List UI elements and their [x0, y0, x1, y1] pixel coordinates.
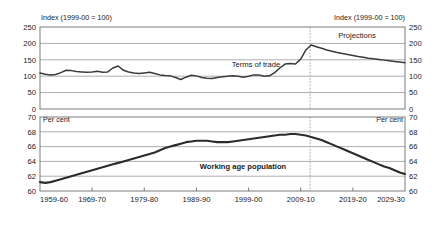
ytick-left-150: 150: [23, 56, 36, 65]
ytick-right-200: 200: [409, 39, 422, 48]
bottom-plot-frame: [40, 117, 405, 191]
top-axis-title-left: Index (1999-00 = 100): [41, 13, 112, 22]
ytick-left-70: 70: [28, 113, 36, 122]
top-axis-title-right: Index (1999-00 = 100): [334, 13, 405, 22]
ytick-left-250: 250: [23, 23, 36, 32]
ytick-left-50: 50: [28, 88, 36, 97]
terms-of-trade-annotation: Terms of trade: [232, 60, 281, 69]
ytick-left-66: 66: [28, 142, 36, 151]
xtick-label-1969-70: 1969-70: [78, 195, 106, 204]
ytick-right-60: 60: [409, 187, 417, 196]
xtick-label-1959-60: 1959-60: [40, 195, 68, 204]
bottom-ytick-labels-left: 70 68 66 64 62 60: [28, 113, 36, 196]
top-ytick-labels-right: 250 200 150 100 50 0: [409, 23, 422, 114]
ytick-right-68: 68: [409, 128, 417, 137]
xtick-label-1979-80: 1979-80: [130, 195, 158, 204]
ytick-left-68: 68: [28, 128, 36, 137]
bottom-axis-title-left: Per cent: [43, 115, 70, 124]
projections-annotation: Projections: [338, 31, 376, 40]
x-axis-tick-labels: 1959-601969-701979-801989-901999-002009-…: [40, 195, 405, 204]
xtick-label-1999-00: 1999-00: [235, 195, 263, 204]
terms-of-trade-line: [40, 45, 405, 79]
working-age-population-line: [40, 134, 405, 183]
xtick-label-2029-30: 2029-30: [377, 195, 405, 204]
ytick-right-150: 150: [409, 56, 422, 65]
figure-container: Index (1999-00 = 100) Index (1999-00 = 1…: [0, 0, 446, 228]
ytick-right-64: 64: [409, 157, 417, 166]
top-gridlines: [40, 43, 405, 92]
working-age-population-annotation: Working age population: [200, 162, 287, 171]
bottom-axis-title-right: Per cent: [376, 115, 403, 124]
ytick-left-200: 200: [23, 39, 36, 48]
ytick-left-64: 64: [28, 157, 36, 166]
bottom-panel-working-age-population: Per cent Per cent 70 68 66 64 62 60 70 6…: [28, 113, 418, 204]
xtick-label-2009-10: 2009-10: [287, 195, 315, 204]
ytick-right-62: 62: [409, 172, 417, 181]
ytick-left-60: 60: [28, 187, 36, 196]
ytick-right-250: 250: [409, 23, 422, 32]
top-ytick-labels-left: 250 200 150 100 50 0: [23, 23, 36, 114]
ytick-right-70: 70: [409, 113, 417, 122]
ytick-right-100: 100: [409, 72, 422, 81]
ytick-right-66: 66: [409, 142, 417, 151]
top-panel-terms-of-trade: Index (1999-00 = 100) Index (1999-00 = 1…: [23, 13, 421, 114]
xtick-label-2019-20: 2019-20: [339, 195, 367, 204]
x-axis-ticks: [92, 188, 353, 192]
bottom-ytick-labels-right: 70 68 66 64 62 60: [409, 113, 417, 196]
ytick-left-62: 62: [28, 172, 36, 181]
terms-of-trade-and-working-age-population-chart: Index (1999-00 = 100) Index (1999-00 = 1…: [0, 0, 446, 228]
ytick-right-50: 50: [409, 88, 417, 97]
xtick-label-1989-90: 1989-90: [182, 195, 210, 204]
ytick-left-100: 100: [23, 72, 36, 81]
